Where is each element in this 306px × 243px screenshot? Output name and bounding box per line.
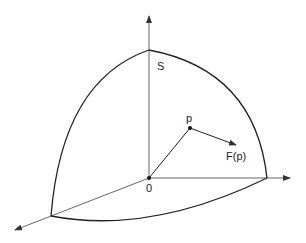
arc-bottom [51,178,267,221]
arc-left [51,50,149,216]
position-vector [149,128,190,178]
origin-label: 0 [146,183,152,194]
diagram-canvas: S 0 p F(p) [0,0,306,243]
arc-right [149,50,267,178]
origin-point [147,176,151,180]
field-label: F(p) [226,151,246,162]
point-label: p [186,113,192,124]
point-p [188,126,192,130]
sphere-label: S [157,61,164,72]
field-vector [190,128,236,145]
sphere-octant-diagram [0,0,306,243]
x-axis [15,178,149,230]
